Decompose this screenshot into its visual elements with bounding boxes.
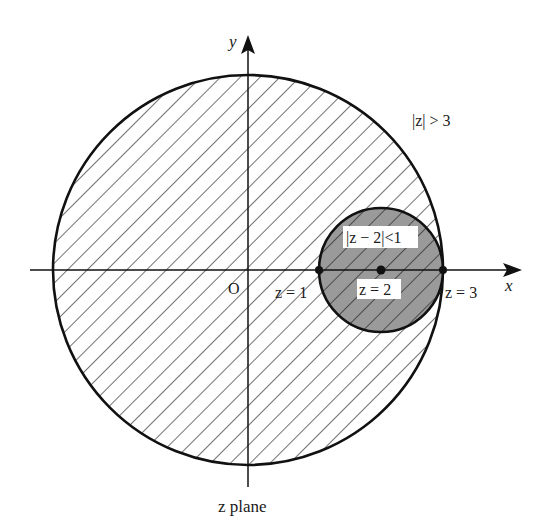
origin-label: O	[228, 280, 240, 297]
point-z3	[439, 266, 447, 274]
point-z1	[315, 266, 323, 274]
z3-label: z = 3	[445, 284, 477, 301]
y-axis-label: y	[227, 32, 237, 51]
outer-region-label: |z| > 3	[412, 112, 451, 130]
plane-title: z plane	[218, 497, 267, 516]
inner-region-label: |z − 2|<1	[346, 229, 402, 247]
point-z2	[377, 266, 386, 275]
z1-label: z = 1	[275, 284, 307, 301]
x-axis-label: x	[504, 276, 513, 295]
z2-label: z = 2	[359, 281, 391, 298]
z-plane-diagram: y x O |z| > 3 |z − 2|<1 z = 1 z = 2 z = …	[0, 0, 549, 517]
